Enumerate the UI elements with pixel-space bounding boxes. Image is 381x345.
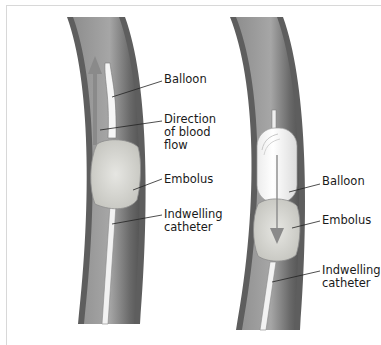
label-embolus-left: Embolus: [164, 173, 213, 186]
label-direction-of-blood-flow: Direction of blood flow: [164, 113, 216, 152]
right-vessel: [230, 17, 305, 330]
label-line: catheter: [164, 221, 223, 234]
label-balloon-left: Balloon: [164, 73, 207, 86]
left-vessel: [67, 17, 146, 324]
label-embolus-right: Embolus: [322, 214, 371, 227]
label-line: flow: [164, 139, 216, 152]
label-indwelling-catheter-left: Indwelling catheter: [164, 208, 223, 234]
label-indwelling-catheter-right: Indwelling catheter: [322, 264, 381, 290]
label-line: catheter: [322, 277, 381, 290]
left-embolus: [91, 140, 141, 209]
label-balloon-right: Balloon: [322, 175, 365, 188]
